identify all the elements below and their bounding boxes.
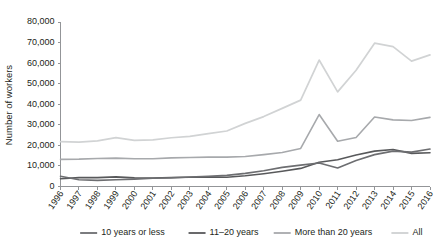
y-tick-label: 20,000 (27, 140, 55, 150)
series-line-3 (61, 43, 431, 142)
chart-legend: 10 years or less11–20 yearsMore than 20 … (80, 227, 422, 237)
x-tick-label: 2009 (286, 189, 306, 211)
x-tick-label: 2000 (120, 189, 140, 211)
line-chart: Number of workers 010,00020,00030,00040,… (0, 0, 439, 249)
x-tick-label: 1999 (101, 189, 121, 211)
legend-label-1: 11–20 years (210, 227, 259, 237)
y-tick-label: 0 (49, 181, 54, 191)
x-axis-ticks: 1996199719981999200020012002200320042005… (46, 187, 435, 212)
x-tick-label: 2003 (175, 189, 195, 211)
y-axis-title-group: Number of workers (3, 65, 14, 145)
y-tick-label: 10,000 (27, 160, 55, 170)
y-tick-label: 70,000 (27, 37, 55, 47)
x-tick-label: 2006 (231, 189, 251, 211)
x-tick-label: 1998 (83, 189, 103, 211)
x-tick-label: 2005 (212, 189, 232, 211)
legend-label-3: All (412, 227, 422, 237)
x-tick-label: 1997 (64, 189, 84, 211)
legend-label-0: 10 years or less (101, 227, 165, 237)
x-tick-label: 2011 (323, 189, 342, 211)
x-tick-label: 1996 (46, 189, 66, 211)
x-tick-label: 2008 (268, 189, 288, 211)
x-tick-label: 2016 (415, 189, 435, 211)
y-axis-title: Number of workers (3, 65, 14, 145)
x-tick-label: 2013 (360, 189, 380, 211)
y-axis-ticks: 010,00020,00030,00040,00050,00060,00070,… (27, 16, 61, 191)
y-tick-label: 50,000 (27, 78, 55, 88)
y-tick-label: 80,000 (27, 16, 55, 26)
x-tick-label: 2014 (379, 189, 399, 211)
x-tick-label: 2004 (194, 189, 214, 211)
y-tick-label: 30,000 (27, 119, 55, 129)
x-tick-label: 2012 (342, 189, 362, 211)
x-tick-label: 2015 (397, 189, 417, 211)
x-tick-label: 2010 (305, 189, 325, 211)
legend-label-2: More than 20 years (295, 227, 373, 237)
y-tick-label: 40,000 (27, 99, 55, 109)
x-tick-label: 2007 (249, 189, 269, 211)
chart-figure: Number of workers 010,00020,00030,00040,… (0, 0, 439, 249)
y-tick-label: 60,000 (27, 58, 55, 68)
series-lines (61, 43, 431, 180)
x-tick-label: 2002 (157, 189, 177, 211)
x-tick-label: 2001 (138, 189, 158, 211)
